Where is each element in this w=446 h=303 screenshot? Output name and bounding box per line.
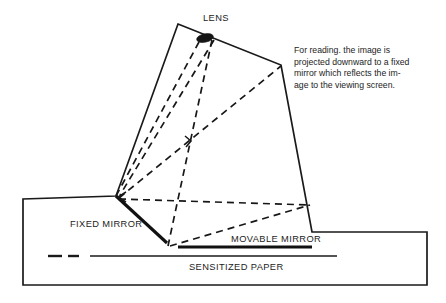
caption-line-4: age to the viewing screen. [294, 80, 436, 92]
lens-label: LENS [203, 13, 229, 23]
movable-mirror-label: MOVABLE MIRROR [231, 234, 321, 244]
caption-text: For reading. the image is projected down… [294, 45, 436, 91]
diagram-canvas: LENS FIXED MIRROR MOVABLE MIRROR SENSITI… [0, 0, 446, 303]
ray-fixed-mirror-to-upper-right-vertex [119, 66, 281, 198]
ray-lens-to-fixed-mirror-left [116, 42, 199, 196]
ray-fixed-mirror-to-right-wall [119, 199, 310, 205]
fixed-mirror-label: FIXED MIRROR [70, 219, 142, 229]
sensitized-paper-label: SENSITIZED PAPER [189, 262, 284, 272]
ray-lens-to-fixed-mirror-right [120, 40, 214, 195]
caption-line-1: For reading. the image is [294, 45, 436, 57]
caption-line-3: mirror which reflects the im- [294, 68, 436, 80]
caption-line-2: projected downward to a fixed [294, 57, 436, 69]
